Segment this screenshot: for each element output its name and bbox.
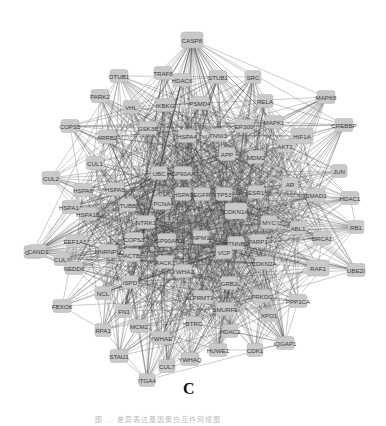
node-label: ITGA4 xyxy=(138,377,156,384)
protein-node-ntrk1: NTRK1 xyxy=(136,216,157,229)
protein-node-smad3: SMAD3 xyxy=(305,189,327,202)
node-label: CUL2 xyxy=(43,175,59,182)
protein-node-src: SRC xyxy=(245,71,261,84)
node-label: AR xyxy=(286,181,295,188)
node-label: NEDD8 xyxy=(64,265,86,272)
node-label: HSPA4 xyxy=(177,133,197,140)
node-label: AKT1 xyxy=(277,143,293,150)
protein-node-otub1: OTUB1 xyxy=(109,70,130,83)
node-label: NPM1 xyxy=(192,234,210,241)
node-label: TRAF6 xyxy=(153,70,173,77)
node-label: VCP xyxy=(218,249,231,256)
protein-node-traf6: TRAF6 xyxy=(153,67,173,80)
node-label: HDAC2 xyxy=(220,328,242,335)
protein-node-ppp1ca: PPP1CA xyxy=(286,295,311,308)
node-label: CUL1 xyxy=(87,160,103,167)
protein-node-hdac1: HDAC1 xyxy=(340,192,362,205)
protein-node-app: APP xyxy=(219,148,235,161)
node-label: SMAD3 xyxy=(305,192,327,199)
node-label: TNNI3 xyxy=(209,132,227,139)
protein-node-stub1: STUB1 xyxy=(208,71,229,84)
node-label: HSP90AB1 xyxy=(151,237,183,244)
protein-node-rela: RELA xyxy=(257,95,274,108)
protein-node-abl1: ABL1 xyxy=(290,222,306,235)
protein-node-eef1a1: EEF1A1 xyxy=(63,235,87,248)
protein-node-mcm2: MCM2 xyxy=(130,320,149,333)
protein-node-raf1: RAF1 xyxy=(307,260,329,276)
node-label: PRMT1 xyxy=(193,294,215,301)
protein-node-ikbkg: IKBKG xyxy=(156,99,175,112)
node-label: MYC xyxy=(262,219,276,226)
protein-node-casp8: CASP8 xyxy=(181,32,203,48)
protein-node-hspa4: HSPA4 xyxy=(177,130,197,143)
node-label: HSPA9 xyxy=(173,191,193,198)
node-label: FN1 xyxy=(118,308,130,315)
node-label: OTUB1 xyxy=(109,73,130,80)
protein-node-ywhaz: YWHAZ xyxy=(172,265,195,278)
protein-node-stau1: STAU1 xyxy=(109,350,129,363)
node-label: PRKDC xyxy=(251,293,273,300)
node-label: RACK1 xyxy=(155,259,176,266)
protein-node-fbxo6: FBXO6 xyxy=(52,300,73,313)
node-label: CUL7 xyxy=(159,363,175,370)
node-label: FBXO6 xyxy=(52,303,73,310)
protein-node-prkdc: PRKDC xyxy=(251,290,273,303)
node-label: SMURF1 xyxy=(212,306,238,313)
protein-node-cdkn1a: CDKN1A xyxy=(223,203,249,219)
node-label: YWHAQ xyxy=(178,356,202,363)
ppi-network: CASP8OTUB1TRAF6HDAC6STUB1SRCPARK2VHLIKBK… xyxy=(0,0,386,390)
protein-node-park2: PARK2 xyxy=(90,90,110,103)
protein-node-crebbp: CREBBP xyxy=(331,119,356,132)
node-label: CAND1 xyxy=(28,248,50,255)
node-label: IKBKG xyxy=(156,102,175,109)
protein-node-hdac2: HDAC2 xyxy=(220,325,242,338)
protein-node-smurf1: SMURF1 xyxy=(212,303,238,316)
node-label: ARRB2 xyxy=(97,134,118,141)
protein-node-xpo1: XPO1 xyxy=(261,309,278,322)
protein-node-ncl: NCL xyxy=(95,287,111,300)
node-label: GSK3B xyxy=(138,125,159,132)
protein-node-fn1: FN1 xyxy=(116,305,132,318)
node-label: HSP90AA1 xyxy=(167,170,199,177)
protein-node-cul2: CUL2 xyxy=(42,172,60,185)
protein-node-parp1: PARP1 xyxy=(248,235,268,248)
protein-node-mapk8: MAPK8 xyxy=(316,91,338,104)
protein-node-jun: JUN xyxy=(331,165,347,178)
node-label: HUWE1 xyxy=(207,347,230,354)
protein-node-ywhaq: YWHAQ xyxy=(178,353,202,366)
protein-node-akt1: AKT1 xyxy=(277,140,293,153)
protein-node-btrc: BTRC xyxy=(186,317,203,330)
node-label: HIF1A xyxy=(293,133,311,140)
node-label: MAPK8 xyxy=(316,94,338,101)
protein-node-cops5: COPS5 xyxy=(60,120,82,133)
node-label: PARK2 xyxy=(90,93,110,100)
protein-node-nedd8: NEDD8 xyxy=(64,262,86,275)
node-label: HSPA8 xyxy=(73,187,93,194)
protein-node-cand1: CAND1 xyxy=(28,245,50,258)
protein-node-ispd: ISPD xyxy=(122,276,138,289)
node-label: COPS3 xyxy=(124,236,146,243)
figure-caption: 图 … 差异表达基因蛋白互作网络图 xyxy=(95,414,325,424)
protein-node-rpa1: RPA1 xyxy=(95,324,111,337)
node-label: HDAC6 xyxy=(172,77,194,84)
node-label: HDAC1 xyxy=(340,195,362,202)
node-label: RB1 xyxy=(350,224,363,231)
panel-label: C xyxy=(183,380,195,398)
node-label: TP53 xyxy=(217,191,232,198)
node-label: GRB2 xyxy=(221,280,238,287)
protein-node-mapk1: MAPK1 xyxy=(264,116,286,129)
protein-node-myc: MYC xyxy=(261,216,277,229)
protein-node-cdk1: CDK1 xyxy=(247,344,264,357)
node-label: VHL xyxy=(125,104,138,111)
protein-node-ube2i: UBE2I xyxy=(347,264,365,277)
node-label: RELA xyxy=(257,98,274,105)
protein-node-cul1: CUL1 xyxy=(86,157,104,170)
protein-node-psmd4: PSMD4 xyxy=(189,97,211,110)
node-label: BRCA1 xyxy=(312,235,333,242)
protein-node-gsk3b: GSK3B xyxy=(138,122,159,135)
protein-node-huwe1: HUWE1 xyxy=(207,344,230,357)
node-label: BTRC xyxy=(186,320,203,327)
node-label: IQGAP1 xyxy=(273,340,297,347)
node-label: EEF1A1 xyxy=(63,238,87,245)
node-label: UBE2I xyxy=(347,267,365,274)
